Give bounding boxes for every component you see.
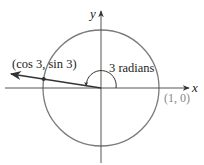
y-axis-label: y	[88, 6, 96, 21]
angle-ray	[11, 74, 101, 88]
unit-circle-diagram: y x (1, 0) (cos 3, sin 3) 3 radians	[0, 0, 204, 165]
point-cos3-sin3	[42, 77, 46, 81]
angle-label: 3 radians	[109, 61, 155, 75]
point-cos3-sin3-label: (cos 3, sin 3)	[12, 57, 77, 71]
point-1-0-label: (1, 0)	[164, 91, 190, 105]
x-axis-label: x	[191, 80, 198, 95]
